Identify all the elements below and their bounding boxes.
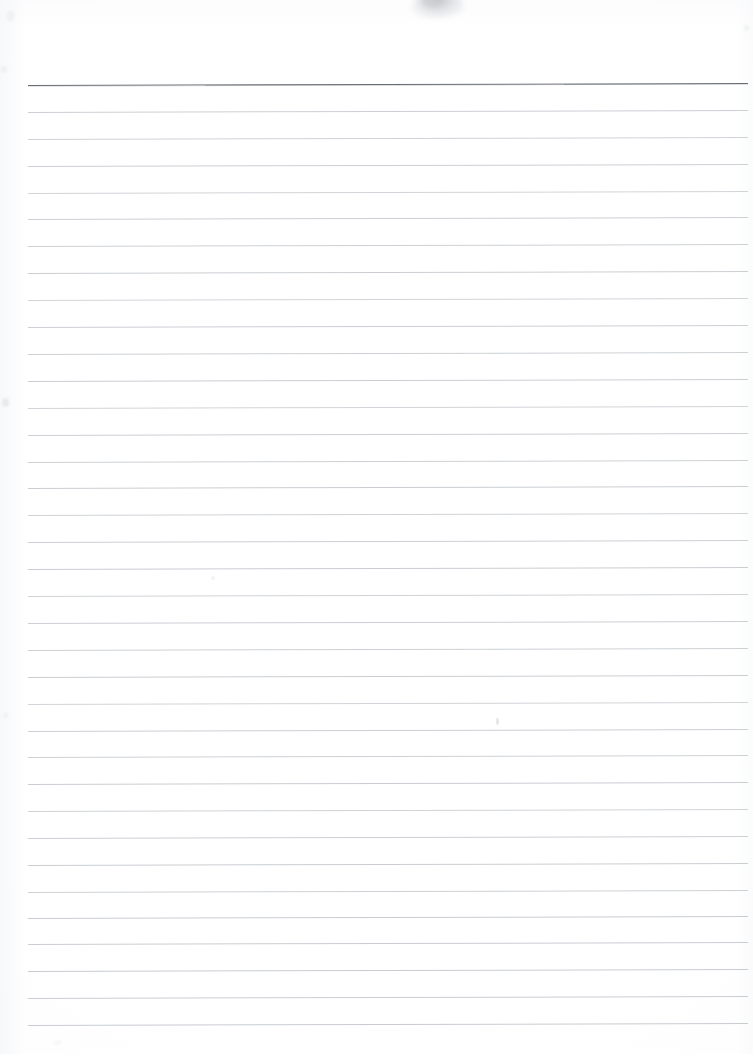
rule-19 — [28, 594, 748, 597]
rule-35 — [28, 1023, 748, 1026]
rule-17 — [28, 540, 748, 543]
rule-18 — [28, 567, 748, 570]
rule-33 — [28, 969, 748, 972]
rule-23 — [28, 702, 748, 705]
rule-30 — [28, 890, 748, 893]
rule-16 — [28, 513, 748, 516]
rule-34 — [28, 996, 748, 999]
rule-15 — [28, 486, 748, 489]
rule-13 — [28, 433, 748, 436]
rule-11 — [28, 379, 748, 382]
rule-07 — [28, 271, 748, 274]
scanned-notebook-page — [0, 0, 753, 1054]
rule-02 — [28, 137, 748, 140]
rule-32 — [28, 942, 748, 945]
rule-24 — [28, 728, 748, 731]
rule-20 — [28, 621, 748, 624]
rule-10 — [28, 352, 748, 355]
rule-12 — [28, 406, 748, 409]
rule-06 — [28, 244, 748, 247]
rule-03 — [28, 164, 748, 167]
rule-31 — [28, 916, 748, 919]
rule-05 — [28, 217, 748, 220]
rule-25 — [28, 755, 748, 758]
rule-27 — [28, 809, 748, 812]
rule-04 — [28, 190, 748, 193]
rule-01 — [28, 110, 748, 113]
rule-22 — [28, 675, 748, 678]
header-rule — [28, 82, 748, 85]
rule-09 — [28, 325, 748, 328]
ruled-lines-layer — [0, 0, 753, 1054]
rule-28 — [28, 836, 748, 839]
rule-08 — [28, 298, 748, 301]
rule-29 — [28, 863, 748, 866]
rule-21 — [28, 648, 748, 651]
rule-26 — [28, 782, 748, 785]
rule-14 — [28, 459, 748, 462]
